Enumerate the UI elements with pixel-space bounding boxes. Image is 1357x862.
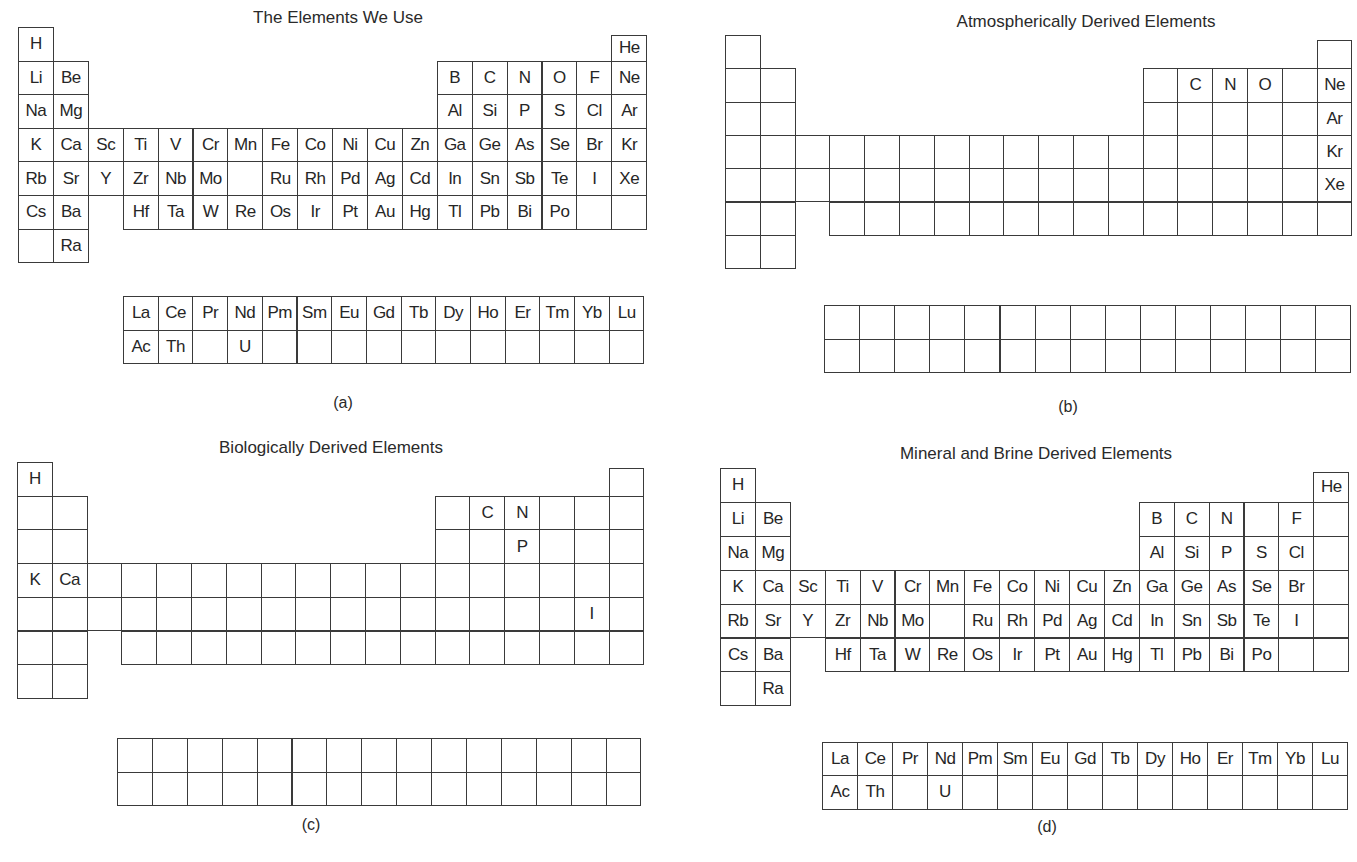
lanthanide-cell: La xyxy=(822,742,858,776)
element-cell xyxy=(1313,604,1349,639)
actinide-cell: Th xyxy=(857,775,893,809)
element-cell: P xyxy=(1209,536,1245,571)
lanthanide-cell: Er xyxy=(1207,742,1243,776)
element-cell: Xe xyxy=(611,161,647,196)
actinide-cell xyxy=(892,775,928,809)
element-cell xyxy=(330,597,366,632)
element-cell: Ru xyxy=(964,604,1000,639)
element-cell xyxy=(330,563,366,598)
element-cell: Tl xyxy=(437,195,473,230)
element-cell: C xyxy=(1177,68,1213,102)
lanthanide-cell: Yb xyxy=(1277,742,1313,776)
actinide-cell xyxy=(396,772,432,807)
element-cell: V xyxy=(158,128,194,163)
element-cell: I xyxy=(1278,604,1314,639)
element-cell: Cu xyxy=(1069,570,1105,605)
element-cell xyxy=(435,631,471,666)
actinide-cell xyxy=(1035,339,1071,374)
lanthanide-cell xyxy=(257,738,293,773)
element-cell: Xe xyxy=(1317,168,1353,202)
lanthanide-cell xyxy=(466,738,502,773)
lanthanide-cell xyxy=(1035,305,1071,340)
element-cell xyxy=(469,597,505,632)
element-cell: Tl xyxy=(1139,638,1175,673)
element-cell: Cd xyxy=(402,161,438,196)
element-cell: Zr xyxy=(123,161,159,196)
panel-title: The Elements We Use xyxy=(253,8,423,28)
element-cell xyxy=(609,496,645,531)
element-cell: Mo xyxy=(895,604,931,639)
element-cell xyxy=(261,631,297,666)
lanthanide-cell xyxy=(824,305,860,340)
lanthanide-cell xyxy=(152,738,188,773)
element-cell: O xyxy=(1247,68,1283,102)
element-cell: Te xyxy=(1244,604,1280,639)
element-cell: Bi xyxy=(1209,638,1245,673)
element-cell: Rb xyxy=(18,161,54,196)
element-cell: Cl xyxy=(1278,536,1314,571)
element-cell: Nb xyxy=(860,604,896,639)
element-cell xyxy=(1177,102,1213,136)
element-cell: Ti xyxy=(825,570,861,605)
element-cell: Ru xyxy=(262,161,298,196)
element-cell: Ag xyxy=(1069,604,1105,639)
actinide-cell xyxy=(1172,775,1208,809)
element-cell: Si xyxy=(1174,536,1210,571)
element-cell xyxy=(121,563,157,598)
element-cell: Fe xyxy=(262,128,298,163)
element-cell xyxy=(760,202,796,236)
element-cell xyxy=(1038,168,1074,202)
element-cell xyxy=(725,135,761,169)
element-cell xyxy=(1282,102,1318,136)
element-cell xyxy=(295,597,331,632)
element-cell: Mn xyxy=(929,570,965,605)
panel-title: Atmospherically Derived Elements xyxy=(957,12,1216,32)
element-cell: Hf xyxy=(123,195,159,230)
element-cell: H xyxy=(18,27,54,62)
element-cell: N xyxy=(504,496,540,531)
element-cell xyxy=(469,563,505,598)
actinide-cell: U xyxy=(927,775,963,809)
element-cell: Be xyxy=(53,61,89,96)
actinide-cell xyxy=(1210,339,1246,374)
element-cell xyxy=(121,597,157,632)
element-cell: F xyxy=(576,61,612,96)
element-cell xyxy=(1073,168,1109,202)
element-cell: Y xyxy=(88,161,124,196)
lanthanide-cell xyxy=(1105,305,1141,340)
element-cell: Ga xyxy=(1139,570,1175,605)
element-cell: Mo xyxy=(193,161,229,196)
lanthanide-cell xyxy=(571,738,607,773)
element-cell: Ir xyxy=(297,195,333,230)
element-cell xyxy=(1317,40,1353,69)
actinide-cell xyxy=(1175,339,1211,374)
actinide-cell xyxy=(609,330,645,365)
element-cell: Ra xyxy=(53,229,89,264)
panel-label: (a) xyxy=(333,394,353,412)
actinide-cell xyxy=(1032,775,1068,809)
element-cell: Zr xyxy=(825,604,861,639)
element-cell: K xyxy=(720,570,756,605)
element-cell xyxy=(17,529,53,564)
element-cell: S xyxy=(1244,536,1280,571)
element-cell: W xyxy=(193,195,229,230)
element-cell xyxy=(261,563,297,598)
actinide-cell xyxy=(505,330,541,365)
element-cell: B xyxy=(1139,502,1175,537)
actinide-cell xyxy=(894,339,930,374)
element-cell: Cr xyxy=(193,128,229,163)
element-cell xyxy=(1317,202,1353,236)
element-cell: Sn xyxy=(472,161,508,196)
element-cell: Cu xyxy=(367,128,403,163)
actinide-cell xyxy=(466,772,502,807)
actinide-cell xyxy=(222,772,258,807)
element-cell: C xyxy=(472,61,508,96)
element-cell xyxy=(864,168,900,202)
lanthanide-cell xyxy=(187,738,223,773)
element-cell xyxy=(934,202,970,236)
lanthanide-cell: Pr xyxy=(192,296,228,331)
element-cell xyxy=(539,529,575,564)
element-cell: Ar xyxy=(611,94,647,129)
element-cell: Fe xyxy=(964,570,1000,605)
actinide-cell xyxy=(1245,339,1281,374)
